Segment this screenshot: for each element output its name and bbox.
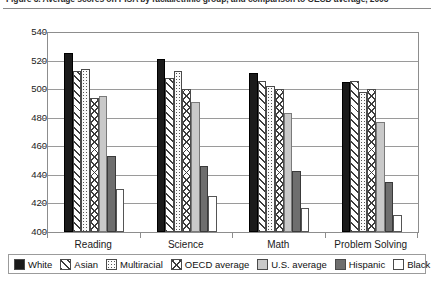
bar-asian-science xyxy=(165,78,174,232)
solid-black-swatch xyxy=(14,259,25,270)
bar-u-s-average-reading xyxy=(99,96,108,232)
diagonal-hatch-swatch xyxy=(60,259,71,270)
legend-label: Hispanic xyxy=(349,259,385,270)
legend-label: U.S. average xyxy=(271,259,326,270)
x-tick-label-science: Science xyxy=(140,239,233,250)
bar-black-problem-solving xyxy=(393,215,402,232)
y-tick-mark xyxy=(41,32,46,33)
bar-white-math xyxy=(249,73,258,232)
legend-label: OECD average xyxy=(185,259,249,270)
chart-area: 400420440460480500520540 ReadingScienceM… xyxy=(0,12,434,244)
legend-item-oecd[interactable]: OECD average xyxy=(171,259,252,270)
bar-oecd-average-problem-solving xyxy=(367,89,376,232)
bar-hispanic-problem-solving xyxy=(385,182,394,232)
legend-label: White xyxy=(28,259,52,270)
bar-white-problem-solving xyxy=(342,82,351,232)
y-axis: 400420440460480500520540 xyxy=(0,32,47,233)
legend-item-us[interactable]: U.S. average xyxy=(257,259,329,270)
chart-legend: WhiteAsianMultiracialOECD averageU.S. av… xyxy=(8,254,426,274)
bar-multiracial-problem-solving xyxy=(359,92,368,232)
bar-oecd-average-math xyxy=(275,89,284,232)
x-tick-mark xyxy=(140,233,141,238)
bar-group-science xyxy=(141,32,234,232)
x-tick-mark xyxy=(417,233,418,238)
bar-multiracial-science xyxy=(174,71,183,232)
x-tick-mark xyxy=(325,233,326,238)
bar-black-math xyxy=(301,208,310,232)
legend-label: Multiracial xyxy=(120,259,163,270)
legend-label: Black xyxy=(407,259,430,270)
dotted-swatch xyxy=(106,259,117,270)
x-tick-label-reading: Reading xyxy=(47,239,140,250)
bar-oecd-average-science xyxy=(182,89,191,232)
y-tick-mark xyxy=(41,89,46,90)
light-gray-swatch xyxy=(257,259,268,270)
bar-group-problem-solving xyxy=(326,32,419,232)
legend-item-white[interactable]: White xyxy=(14,259,55,270)
legend-item-multiracial[interactable]: Multiracial xyxy=(106,259,166,270)
bar-u-s-average-math xyxy=(284,113,293,232)
y-tick-mark xyxy=(41,175,46,176)
x-tick-mark xyxy=(232,233,233,238)
bar-white-science xyxy=(157,59,166,232)
bar-hispanic-science xyxy=(200,166,209,232)
bar-u-s-average-science xyxy=(191,102,200,232)
dark-gray-swatch xyxy=(335,259,346,270)
page-title: Figure 3. Average scores on PISA by raci… xyxy=(6,0,388,4)
legend-label: Asian xyxy=(74,259,98,270)
y-tick-mark xyxy=(41,118,46,119)
bar-multiracial-reading xyxy=(81,69,90,232)
bar-asian-problem-solving xyxy=(350,81,359,232)
bar-asian-reading xyxy=(73,71,82,232)
cross-hatch-swatch xyxy=(171,259,182,270)
bar-u-s-average-problem-solving xyxy=(376,122,385,232)
title-divider xyxy=(3,8,431,9)
bar-multiracial-math xyxy=(266,86,275,232)
y-tick-mark xyxy=(41,232,46,233)
y-tick-mark xyxy=(41,203,46,204)
bar-black-science xyxy=(208,196,217,232)
white-swatch xyxy=(393,259,404,270)
bar-asian-math xyxy=(258,81,267,232)
bar-group-reading xyxy=(48,32,141,232)
x-tick-mark xyxy=(47,233,48,238)
y-tick-mark xyxy=(41,61,46,62)
x-tick-label-problem-solving: Problem Solving xyxy=(325,239,418,250)
legend-item-asian[interactable]: Asian xyxy=(60,259,101,270)
figure-title-strip: Figure 3. Average scores on PISA by raci… xyxy=(0,0,434,7)
bar-black-reading xyxy=(116,189,125,232)
x-tick-label-math: Math xyxy=(232,239,325,250)
bars-layer xyxy=(48,32,418,232)
bar-white-reading xyxy=(64,53,73,232)
bar-oecd-average-reading xyxy=(90,98,99,232)
x-axis: ReadingScienceMathProblem Solving xyxy=(47,233,419,255)
bar-hispanic-math xyxy=(292,171,301,232)
bar-group-math xyxy=(233,32,326,232)
legend-item-hispanic[interactable]: Hispanic xyxy=(335,259,388,270)
bar-hispanic-reading xyxy=(107,156,116,232)
y-tick-mark xyxy=(41,146,46,147)
legend-item-black[interactable]: Black xyxy=(393,259,433,270)
